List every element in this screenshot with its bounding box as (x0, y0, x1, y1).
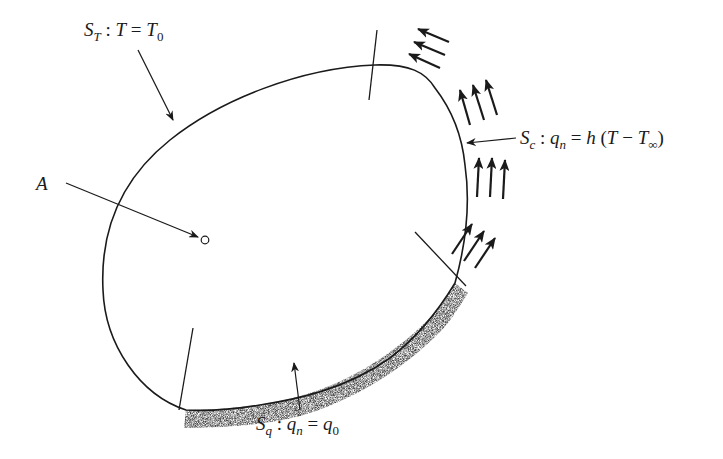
convection-label: Sc : qn = h (T − T∞) (520, 127, 664, 152)
diagram-canvas: ST : T = T0 A Sc : qn = h (T − T∞) Sq : … (0, 0, 723, 459)
divider-bottom (179, 328, 193, 410)
convection-arrows-bottom (452, 224, 495, 268)
point-a-label: A (34, 173, 48, 194)
convection-arrows-top (409, 29, 449, 68)
convection-leader-arrow (467, 138, 516, 143)
point-a-leader-arrow (66, 183, 198, 237)
flux-boundary-stipple (184, 283, 468, 428)
divider-right (415, 232, 466, 286)
dirichlet-label: ST : T = T0 (84, 19, 163, 44)
convection-arrows-lower (477, 158, 505, 199)
domain-boundary (103, 65, 468, 410)
dirichlet-leader-arrow (138, 50, 173, 120)
convection-arrows-middle (460, 80, 497, 125)
point-a-marker (201, 236, 209, 244)
